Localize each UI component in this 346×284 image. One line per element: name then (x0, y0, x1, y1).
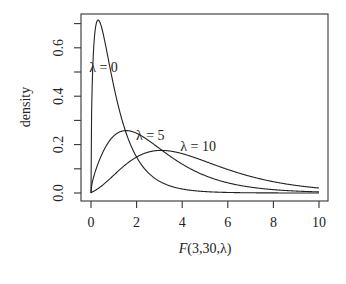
chart: 0246810 0.00.20.40.6 λ = 0λ = 5λ = 10 de… (0, 0, 346, 284)
curve-label: λ = 0 (89, 60, 118, 75)
x-tick-label: 6 (224, 215, 231, 230)
y-tick-label: 0.0 (51, 184, 66, 202)
x-axis-label: F(3,30,λ) (178, 241, 232, 257)
x-tick-label: 4 (179, 215, 186, 230)
y-axis-label: density (18, 87, 33, 127)
y-tick-label: 0.6 (51, 39, 66, 57)
x-tick-label: 0 (88, 215, 95, 230)
x-tick-label: 2 (133, 215, 140, 230)
density-curve-0 (91, 20, 319, 193)
x-tick-label: 10 (312, 215, 326, 230)
density-curves (91, 20, 319, 193)
plot-frame (81, 14, 328, 201)
x-tick-label: 8 (270, 215, 277, 230)
curve-labels: λ = 0λ = 5λ = 10 (89, 60, 216, 154)
y-axis: 0.00.20.40.6 (51, 24, 81, 202)
curve-label: λ = 10 (180, 139, 216, 154)
density-curve-10 (91, 150, 319, 193)
y-tick-label: 0.4 (51, 87, 66, 105)
x-axis: 0246810 (88, 201, 327, 230)
curve-label: λ = 5 (136, 128, 165, 143)
y-tick-label: 0.2 (51, 136, 66, 154)
